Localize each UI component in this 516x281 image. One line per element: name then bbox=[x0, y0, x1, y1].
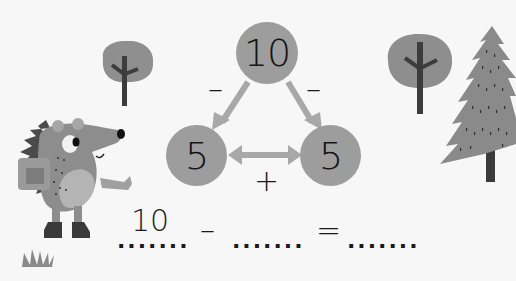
equation-minus-sign: – bbox=[200, 215, 215, 245]
top-number-circle: 10 bbox=[236, 22, 298, 84]
equation-equals-sign: = bbox=[316, 216, 341, 246]
top-number: 10 bbox=[244, 31, 290, 75]
equation-blank-2[interactable]: ....... bbox=[232, 230, 305, 252]
equation-blank-1[interactable]: ....... bbox=[117, 230, 190, 252]
right-minus-operator: – bbox=[306, 74, 321, 104]
plus-operator: + bbox=[254, 166, 279, 196]
left-minus-operator: – bbox=[208, 74, 223, 104]
right-number-circle: 5 bbox=[300, 125, 361, 186]
equation-blank-3[interactable]: ....... bbox=[347, 230, 420, 252]
left-number-circle: 5 bbox=[166, 125, 227, 186]
right-number: 5 bbox=[319, 134, 342, 178]
left-number: 5 bbox=[185, 134, 208, 178]
